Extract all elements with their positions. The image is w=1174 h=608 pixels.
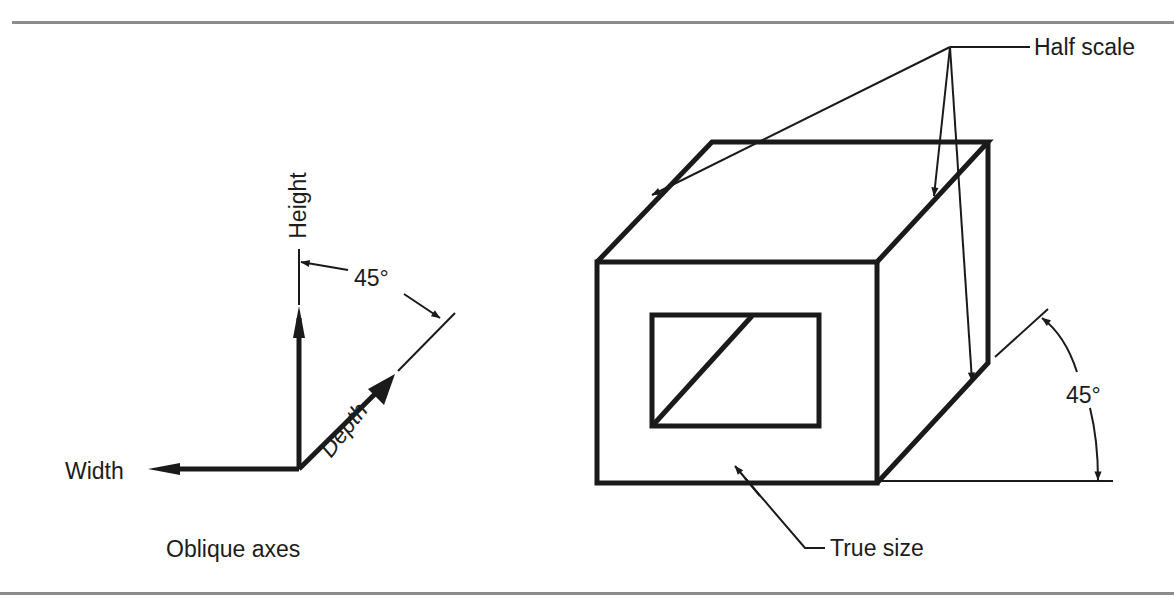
leader-top-left-edge [652, 47, 950, 195]
arc-upper [1042, 318, 1077, 372]
leader-bottom-right-edge [950, 47, 972, 381]
height-arrowhead-icon [293, 306, 305, 338]
top-face [597, 142, 988, 262]
width-arrowhead-icon [148, 463, 180, 475]
right-face [877, 142, 988, 483]
opening-diagonal [654, 316, 752, 424]
oblique-drawing [0, 0, 1174, 608]
true-size-leader [735, 466, 825, 548]
angle-label-left: 45° [354, 267, 389, 290]
depth-extension-line [398, 313, 455, 371]
true-size-label: True size [830, 537, 924, 560]
caption-oblique-axes: Oblique axes [166, 538, 300, 561]
angle-leader-left [301, 262, 348, 270]
arc-lower [1090, 408, 1098, 480]
angle-leader-right [404, 294, 440, 318]
half-scale-leaders [652, 47, 1030, 381]
leader-top-right-edge [934, 47, 950, 196]
depth-extension [995, 309, 1048, 357]
height-label: Height [287, 161, 310, 251]
front-face [597, 262, 877, 483]
angle-label-right: 45° [1066, 384, 1101, 407]
width-label: Width [65, 460, 124, 483]
oblique-axes [148, 249, 455, 475]
half-scale-label: Half scale [1034, 36, 1135, 59]
